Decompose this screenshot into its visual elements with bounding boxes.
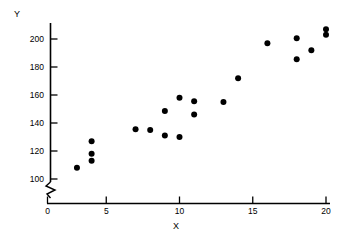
y-tick-label: 120 <box>20 146 44 156</box>
x-tick-label: 15 <box>243 206 263 216</box>
data-point <box>177 95 183 101</box>
data-point <box>74 165 80 171</box>
x-tick-label: 10 <box>170 206 190 216</box>
data-point <box>294 35 300 41</box>
x-axis-title: X <box>173 221 179 231</box>
data-point <box>191 98 197 104</box>
y-axis-break-icon <box>46 182 55 198</box>
x-tick-label: 5 <box>96 206 116 216</box>
y-tick-label: 180 <box>20 62 44 72</box>
data-point <box>89 158 95 164</box>
plot-area <box>0 0 347 236</box>
y-tick-label: 100 <box>20 174 44 184</box>
x-tick-label: 0 <box>38 206 58 216</box>
data-point <box>191 112 197 118</box>
x-axis-ticks <box>48 197 327 204</box>
x-tick-label: 20 <box>316 206 336 216</box>
y-axis-title: Y <box>14 9 20 19</box>
y-tick-label: 160 <box>20 90 44 100</box>
data-point <box>177 134 183 140</box>
data-point <box>162 108 168 114</box>
y-tick-label: 200 <box>20 34 44 44</box>
data-point <box>147 127 153 133</box>
data-point <box>294 56 300 62</box>
data-point <box>89 138 95 144</box>
data-point <box>89 151 95 157</box>
data-point <box>308 47 314 53</box>
data-point-group <box>74 26 329 171</box>
data-point <box>323 26 329 32</box>
data-point <box>220 99 226 105</box>
y-axis-ticks <box>51 39 58 179</box>
data-point <box>162 133 168 139</box>
data-point <box>264 40 270 46</box>
data-point <box>133 126 139 132</box>
y-tick-label: 140 <box>20 118 44 128</box>
data-point <box>323 32 329 38</box>
data-point <box>235 75 241 81</box>
scatter-chart: Y X 100120140160180200 05101520 <box>0 0 347 236</box>
